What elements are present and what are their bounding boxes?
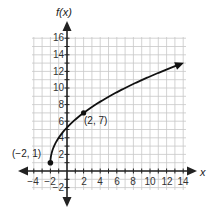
x-tick-label: 8 xyxy=(130,176,136,187)
y-axis-down-arrow-icon xyxy=(63,197,72,207)
y-tick-label: 16 xyxy=(53,32,65,43)
point-label-start: (−2, 1) xyxy=(12,148,41,159)
x-axis-label: x xyxy=(199,166,206,178)
x-tick-label: 10 xyxy=(144,176,156,187)
function-graph: f(x) x −4 −2 2 4 6 8 10 12 14 −2 2 4 6 8… xyxy=(0,0,216,211)
y-tick-label: 2 xyxy=(58,149,64,160)
y-tick-label: 10 xyxy=(53,82,65,93)
x-tick-label: 6 xyxy=(114,176,120,187)
x-tick-label: 12 xyxy=(161,176,173,187)
x-tick-label: 2 xyxy=(81,176,87,187)
x-tick-label: 14 xyxy=(177,176,189,187)
y-axis-up-arrow-icon xyxy=(63,21,72,31)
x-axis-left-arrow-icon xyxy=(18,167,28,176)
y-tick-label: 12 xyxy=(53,66,65,77)
y-tick-label: 6 xyxy=(58,116,64,127)
x-axis xyxy=(18,167,197,176)
y-axis-label: f(x) xyxy=(56,6,72,18)
x-tick-label: 4 xyxy=(97,176,103,187)
y-tick-label: 14 xyxy=(53,49,65,60)
curve-end-arrow-icon xyxy=(174,62,184,69)
x-tick-label: −4 xyxy=(27,176,39,187)
point-start-closed xyxy=(48,160,54,166)
y-tick-label: 8 xyxy=(58,99,64,110)
point-label-2-7: (2, 7) xyxy=(84,115,107,126)
x-axis-right-arrow-icon xyxy=(187,167,197,176)
y-tick-label: −2 xyxy=(53,182,65,193)
